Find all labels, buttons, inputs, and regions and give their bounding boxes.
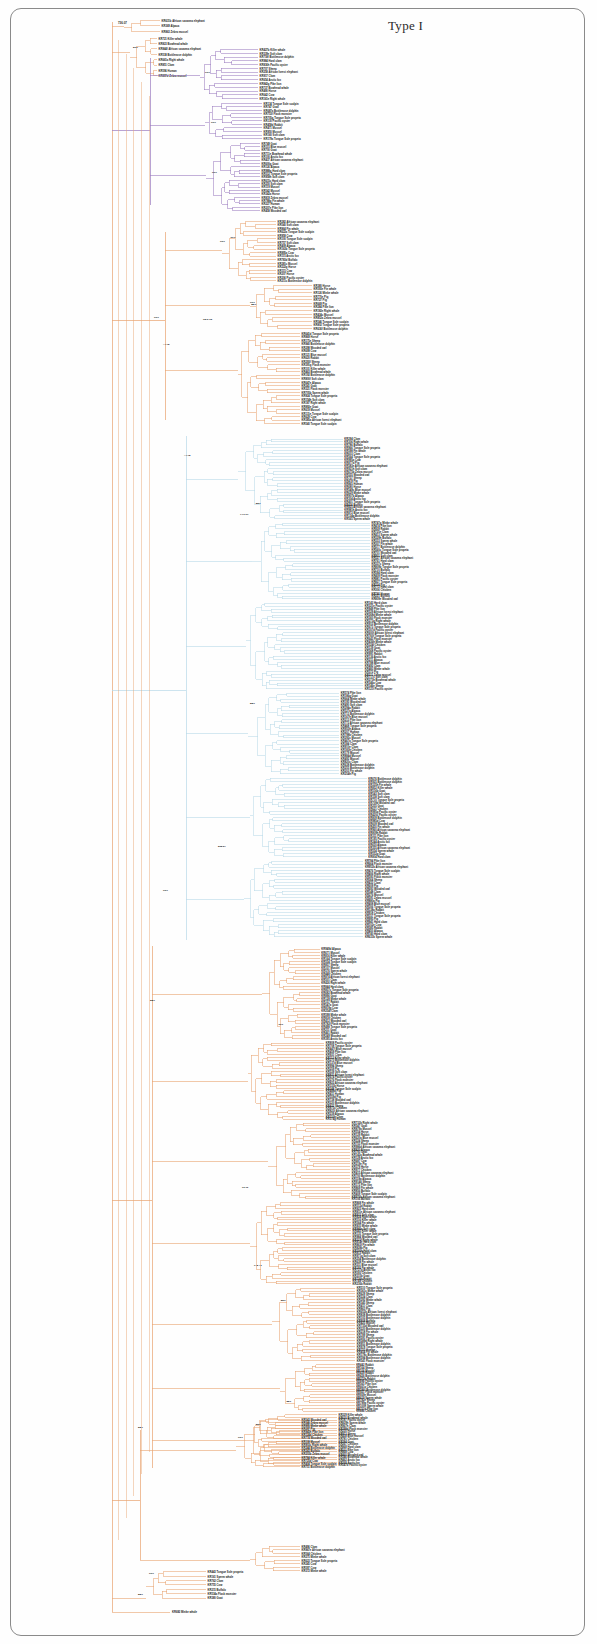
svg-text:88/1: 88/1 xyxy=(281,1299,286,1302)
svg-text:KR182e Right whale: KR182e Right whale xyxy=(314,309,340,313)
svg-text:KR895a Cow: KR895a Cow xyxy=(278,251,295,255)
svg-text:KR596 Human: KR596 Human xyxy=(159,69,178,73)
svg-text:=4.78: =4.78 xyxy=(184,454,191,457)
svg-text:KR863 Zebra mussel: KR863 Zebra mussel xyxy=(162,30,189,34)
svg-text:89/1: 89/1 xyxy=(133,46,138,49)
svg-text:KR892e Goat: KR892e Goat xyxy=(302,405,319,409)
svg-text:KR804 Hard clam: KR804 Hard clam xyxy=(368,855,391,859)
svg-text:99/1: 99/1 xyxy=(250,301,255,304)
svg-text:KR565 Sperm whale: KR565 Sperm whale xyxy=(344,517,370,521)
svg-text:KR958h Soft clam: KR958h Soft clam xyxy=(262,175,285,179)
svg-text:KR984 Hard clam: KR984 Hard clam xyxy=(260,59,283,63)
svg-text:KR851 Clam: KR851 Clam xyxy=(159,63,175,67)
svg-text:KR950 Mussel: KR950 Mussel xyxy=(264,130,282,134)
svg-text:KR654 Arctic fox: KR654 Arctic fox xyxy=(260,78,282,82)
svg-text:KR443 Tongue Sole propeta: KR443 Tongue Sole propeta xyxy=(208,1570,244,1574)
svg-text:KR463 Bowhead whale: KR463 Bowhead whale xyxy=(302,370,332,374)
svg-text:KR669 Pig: KR669 Pig xyxy=(314,302,328,306)
svg-text:KR631b African savanna elephan: KR631b African savanna elephant xyxy=(162,19,205,23)
svg-text:KR642 Cow: KR642 Cow xyxy=(260,93,276,97)
svg-text:KR134 Tongue Sole scalpin: KR134 Tongue Sole scalpin xyxy=(264,102,299,106)
svg-text:96/1: 96/1 xyxy=(163,889,168,892)
svg-text:KR705b Sperm whale: KR705b Sperm whale xyxy=(302,391,330,395)
svg-text:KR369 Alpaca: KR369 Alpaca xyxy=(162,24,180,28)
svg-text:KR886 Chicken: KR886 Chicken xyxy=(356,1409,376,1413)
svg-text:KR298 Wooded owl: KR298 Wooded owl xyxy=(302,346,327,350)
svg-text:KR844f African savanna elephan: KR844f African savanna elephant xyxy=(159,47,202,51)
svg-text:99/1: 99/1 xyxy=(211,121,216,124)
svg-text:KR236b Rabbit: KR236b Rabbit xyxy=(353,1282,372,1286)
svg-text:KR917 Clam: KR917 Clam xyxy=(260,74,276,78)
svg-text:KR115 Cow: KR115 Cow xyxy=(278,269,294,273)
svg-text:KR755 Cow: KR755 Cow xyxy=(208,1583,224,1587)
svg-text:KR160 Soft clam: KR160 Soft clam xyxy=(264,133,286,137)
svg-text:99/1: 99/1 xyxy=(149,1572,154,1575)
svg-text:KR161e Right whale: KR161e Right whale xyxy=(260,97,286,101)
svg-text:KR757 Soft clam: KR757 Soft clam xyxy=(278,241,300,245)
svg-text:KR339e Soft clam: KR339e Soft clam xyxy=(260,52,283,56)
svg-text:KR747 Goat: KR747 Goat xyxy=(264,105,279,109)
svg-text:KR374g Human: KR374g Human xyxy=(326,1117,346,1121)
svg-text:KR215 Buffalo: KR215 Buffalo xyxy=(208,1588,227,1592)
svg-text:KR121f Pacific oyster: KR121f Pacific oyster xyxy=(365,687,393,691)
svg-text:KR641d Tongue Sole propeta: KR641d Tongue Sole propeta xyxy=(302,332,340,336)
svg-text:KR540 Tongue Sole scalpin: KR540 Tongue Sole scalpin xyxy=(302,422,337,426)
svg-text:KR842g Pike lion: KR842g Pike lion xyxy=(260,82,282,86)
svg-text:KR647e Alpaca: KR647e Alpaca xyxy=(302,381,322,385)
svg-text:KR687a Bottlenose dolphin: KR687a Bottlenose dolphin xyxy=(264,109,299,113)
svg-text:KR705g Tongue Sole propeta: KR705g Tongue Sole propeta xyxy=(264,116,302,120)
svg-text:KR802 Tongue Sole propeta: KR802 Tongue Sole propeta xyxy=(314,323,350,327)
svg-text:KR770e Pig: KR770e Pig xyxy=(314,295,329,299)
svg-text:KR541 Flask monster: KR541 Flask monster xyxy=(357,1359,384,1363)
svg-text:KR564 Chicken: KR564 Chicken xyxy=(302,1552,322,1556)
svg-text:KR115 Arctic fox: KR115 Arctic fox xyxy=(278,254,300,258)
svg-text:KR958 Cow: KR958 Cow xyxy=(278,234,294,238)
svg-text:KR281c Mussel: KR281c Mussel xyxy=(278,262,298,266)
svg-text:808.27: 808.27 xyxy=(218,845,226,848)
svg-text:88/1: 88/1 xyxy=(286,1400,291,1403)
svg-text:KR192 Bottlenose dolphin: KR192 Bottlenose dolphin xyxy=(302,373,336,377)
svg-text:KR258 African forest elephant: KR258 African forest elephant xyxy=(260,70,298,74)
svg-text:88/1: 88/1 xyxy=(250,702,255,705)
svg-text:KR131e Tongue Sole scalpin: KR131e Tongue Sole scalpin xyxy=(302,412,339,416)
svg-text:KR783d Buffalo: KR783d Buffalo xyxy=(278,258,298,262)
svg-text:KR629 Cow: KR629 Cow xyxy=(302,415,318,419)
svg-text:KR458 Wooded owl: KR458 Wooded owl xyxy=(262,209,287,213)
svg-text:KR762 Clam: KR762 Clam xyxy=(208,1579,224,1583)
svg-text:KR699 Cow: KR699 Cow xyxy=(302,349,318,353)
svg-text:KR380 Goat: KR380 Goat xyxy=(208,1596,223,1600)
svg-text:KR126 Alpaca: KR126 Alpaca xyxy=(262,165,280,169)
svg-text:99/1: 99/1 xyxy=(154,316,159,319)
svg-text:KR427b Killer whale: KR427b Killer whale xyxy=(260,48,286,52)
svg-text:KR130 Pacific oyster: KR130 Pacific oyster xyxy=(264,119,291,123)
svg-text:KR254h Pig: KR254h Pig xyxy=(341,772,356,776)
svg-text:KR434c Mussel: KR434c Mussel xyxy=(314,313,334,317)
svg-text:KR391g Flask monster: KR391g Flask monster xyxy=(302,363,331,367)
svg-text:KR409 Alpaca: KR409 Alpaca xyxy=(278,244,296,248)
svg-text:KR622a Tongue Sole scalpin: KR622a Tongue Sole scalpin xyxy=(278,230,315,234)
svg-text:KR241 Goat: KR241 Goat xyxy=(302,384,317,388)
svg-text:KR187 Right whale: KR187 Right whale xyxy=(302,401,327,405)
svg-text:98.6/.95: 98.6/.95 xyxy=(203,318,213,321)
svg-text:KR372 Minke whale: KR372 Minke whale xyxy=(302,1569,327,1573)
svg-text:KR321 Flask monster: KR321 Flask monster xyxy=(302,387,329,391)
svg-text:KR836h Pacific oyster: KR836h Pacific oyster xyxy=(260,63,288,67)
svg-text:KR600g Goat: KR600g Goat xyxy=(262,162,279,166)
svg-text:KR852a Zebra mussel: KR852a Zebra mussel xyxy=(314,316,342,320)
svg-text:KR661a Right whale: KR661a Right whale xyxy=(159,58,185,62)
svg-text:KR707 Sheep: KR707 Sheep xyxy=(260,67,278,71)
svg-text:KR753f Flask monster: KR753f Flask monster xyxy=(264,112,292,116)
svg-text:=4.78: =4.78 xyxy=(163,343,170,346)
svg-text:88/1: 88/1 xyxy=(138,1426,143,1429)
svg-text:KR206 Pacific oyster: KR206 Pacific oyster xyxy=(278,276,305,280)
svg-text:KR207 Horse: KR207 Horse xyxy=(278,272,295,276)
svg-text:KR207e Pike lion: KR207e Pike lion xyxy=(262,206,284,210)
svg-text:KR490 Horse: KR490 Horse xyxy=(260,89,277,93)
svg-text:KR101 Killer whale: KR101 Killer whale xyxy=(302,367,327,371)
svg-text:KR179a Tongue Sole propeta: KR179a Tongue Sole propeta xyxy=(264,137,302,141)
svg-text:KR749 Goat: KR749 Goat xyxy=(262,142,277,146)
svg-text:KR245 Cow: KR245 Cow xyxy=(302,1562,318,1566)
svg-text:KR282 African savanna elephant: KR282 African savanna elephant xyxy=(278,220,320,224)
svg-text:88/1: 88/1 xyxy=(138,1593,143,1596)
svg-text:KR727 Pig: KR727 Pig xyxy=(314,298,328,302)
